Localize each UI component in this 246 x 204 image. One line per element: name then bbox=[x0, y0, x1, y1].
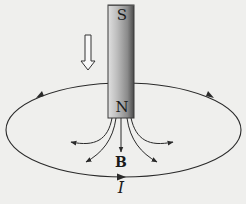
field-line-far-left bbox=[71, 118, 112, 144]
field-label: B bbox=[111, 155, 131, 169]
loop-arrow-left-icon bbox=[36, 91, 44, 98]
motion-arrow-down-icon bbox=[81, 35, 95, 70]
field-line-far-right bbox=[131, 118, 173, 144]
current-label: I bbox=[111, 180, 131, 196]
field-line-right bbox=[127, 118, 157, 162]
north-pole-label: N bbox=[112, 100, 132, 115]
south-pole-label: S bbox=[112, 8, 132, 23]
